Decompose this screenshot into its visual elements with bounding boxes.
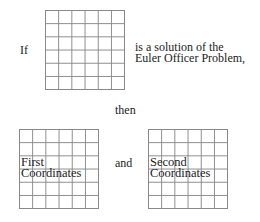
then-label: then <box>115 104 136 116</box>
second-coordinates-label-line2: Coordinates <box>150 168 210 179</box>
if-label: If <box>20 44 28 56</box>
premise-text-line2: Euler Officer Problem, <box>135 52 245 64</box>
first-coordinates-label-line2: Coordinates <box>21 168 81 179</box>
top-grid-6x6 <box>45 10 125 90</box>
and-label: and <box>115 157 132 169</box>
